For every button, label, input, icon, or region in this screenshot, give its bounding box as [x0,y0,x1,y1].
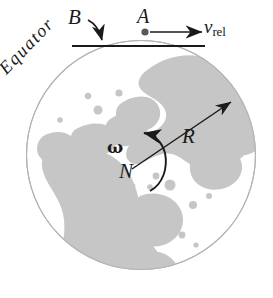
island-dot [131,184,136,189]
island-dot [189,201,197,209]
point-a-marker [141,28,148,35]
point-b-label: B [68,7,81,28]
island-dot [57,117,63,123]
b-pointer-arrow [88,20,102,40]
island-dot [206,193,212,199]
relative-velocity-label: vrel [204,17,226,36]
angular-velocity-label: ω [107,139,123,156]
northeast-asia-limb [219,114,264,156]
island-dot [179,232,186,239]
island-dot [94,106,103,115]
island-dot [85,93,91,99]
island-dot [165,180,176,191]
velocity-subscript: rel [212,24,225,39]
point-a-label: A [137,6,149,26]
island-dot [83,169,88,174]
island-dot [153,173,160,180]
radius-label: R [182,126,195,147]
island-dot [115,89,122,96]
island-dot [193,242,198,247]
north-pole-label: N [119,161,133,182]
earth-rotation-diagram: Equator B A vrel R N ω [0,0,273,298]
island-dot [101,160,107,166]
